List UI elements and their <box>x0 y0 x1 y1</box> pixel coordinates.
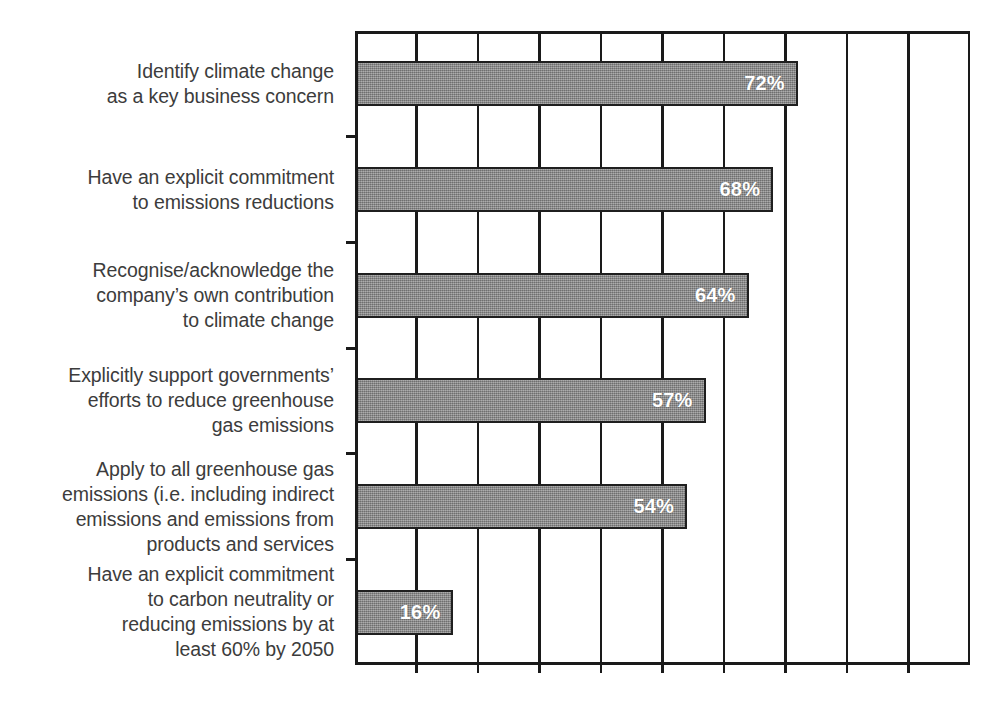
gridline <box>907 31 910 665</box>
gridline <box>477 31 480 665</box>
bar-value-label: 16% <box>400 601 452 624</box>
bar-value-label: 72% <box>744 72 796 95</box>
x-axis-tick <box>415 665 418 673</box>
gridline <box>600 31 603 665</box>
bar: 54% <box>355 484 687 529</box>
category-label: Have an explicit commitment to emissions… <box>4 165 334 215</box>
bar: 64% <box>355 273 749 318</box>
category-label: Explicitly support governments’ efforts … <box>4 363 334 438</box>
x-axis-tick <box>477 665 480 673</box>
bar: 57% <box>355 378 706 423</box>
y-axis-tick <box>346 135 355 138</box>
bar-value-label: 68% <box>720 178 772 201</box>
gridline <box>723 31 726 665</box>
bar-value-label: 64% <box>695 284 747 307</box>
y-axis-tick <box>346 558 355 561</box>
gridline <box>846 31 849 665</box>
gridline <box>538 31 541 665</box>
x-axis-tick <box>907 665 910 673</box>
plot-area: 72%68%64%57%54%16% <box>355 31 970 665</box>
y-axis-tick <box>346 347 355 350</box>
x-axis-tick <box>784 665 787 673</box>
category-label-column: Identify climate change as a key busines… <box>0 31 348 665</box>
bar-chart: Identify climate change as a key busines… <box>0 0 1001 728</box>
category-label: Have an explicit commitment to carbon ne… <box>4 562 334 662</box>
bar: 68% <box>355 167 773 212</box>
x-axis-tick <box>600 665 603 673</box>
x-axis-tick <box>846 665 849 673</box>
x-axis-tick <box>538 665 541 673</box>
category-label: Apply to all greenhouse gas emissions (i… <box>4 457 334 557</box>
x-axis-tick <box>661 665 664 673</box>
bar-value-label: 57% <box>652 389 704 412</box>
bar: 16% <box>355 590 453 635</box>
bar: 72% <box>355 61 798 106</box>
gridline <box>784 31 787 665</box>
y-axis-tick <box>346 241 355 244</box>
gridline <box>415 31 418 665</box>
x-axis-tick <box>723 665 726 673</box>
bar-value-label: 54% <box>633 495 685 518</box>
category-label: Recognise/acknowledge the company’s own … <box>4 258 334 333</box>
gridline <box>661 31 664 665</box>
category-label: Identify climate change as a key busines… <box>4 59 334 109</box>
y-axis-tick <box>346 452 355 455</box>
